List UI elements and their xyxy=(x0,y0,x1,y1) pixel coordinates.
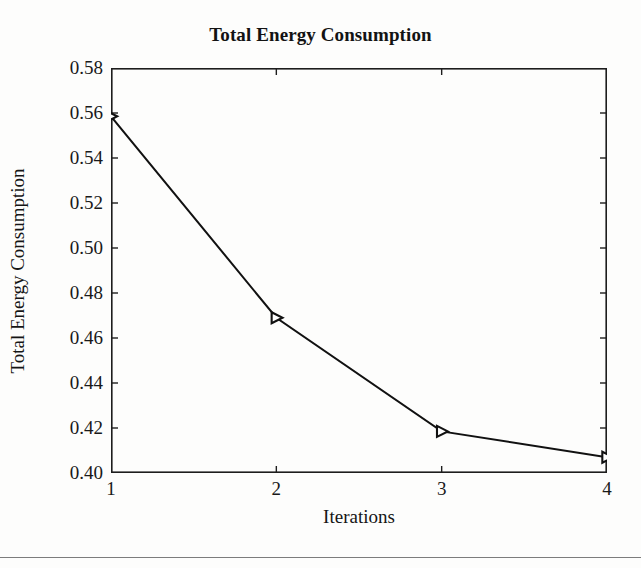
y-tick-label: 0.40 xyxy=(70,462,103,484)
y-tick-label: 0.56 xyxy=(70,102,103,124)
chart-title: Total Energy Consumption xyxy=(0,24,641,46)
x-tick-label: 1 xyxy=(106,478,116,500)
y-tick-label: 0.58 xyxy=(70,57,103,79)
y-tick-label: 0.50 xyxy=(70,237,103,259)
data-markers xyxy=(111,111,607,463)
axis-ticks xyxy=(111,68,607,473)
axis-frame xyxy=(112,69,606,472)
chart-figure: Total Energy Consumption Total Energy Co… xyxy=(0,0,641,568)
x-tick-label: 3 xyxy=(437,478,447,500)
plot-svg xyxy=(111,68,607,473)
x-tick-label: 2 xyxy=(272,478,282,500)
y-tick-label: 0.52 xyxy=(70,192,103,214)
y-tick-label: 0.42 xyxy=(70,417,103,439)
page-rule-divider xyxy=(0,557,641,558)
x-tick-label: 4 xyxy=(602,478,612,500)
x-axis-tick-labels: 1234 xyxy=(111,478,607,504)
y-tick-label: 0.54 xyxy=(70,147,103,169)
data-line xyxy=(111,116,607,457)
y-tick-label: 0.48 xyxy=(70,282,103,304)
x-axis-label: Iterations xyxy=(111,506,607,528)
y-tick-label: 0.44 xyxy=(70,372,103,394)
y-tick-label: 0.46 xyxy=(70,327,103,349)
plot-area xyxy=(111,68,607,473)
y-axis-tick-labels: 0.400.420.440.460.480.500.520.540.560.58 xyxy=(0,68,103,473)
